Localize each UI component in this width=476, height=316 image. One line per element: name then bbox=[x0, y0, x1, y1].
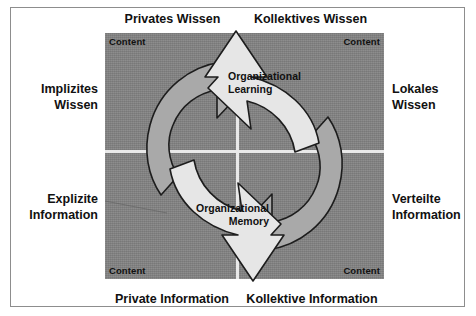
axis-label-left-top-line2: Wissen bbox=[14, 98, 98, 114]
axis-label-right-top: Lokales Wissen bbox=[392, 82, 439, 113]
axis-label-right-top-line2: Wissen bbox=[392, 98, 439, 114]
axis-label-bottom-right: Kollektive Information bbox=[242, 292, 382, 307]
axis-label-top-right: Kollektives Wissen bbox=[243, 12, 378, 27]
arrow-label-organizational-learning: Organizational Learning bbox=[228, 70, 301, 96]
axis-label-right-bottom-line2: Information bbox=[392, 208, 461, 224]
axis-label-bottom-left: Private Information bbox=[108, 292, 236, 307]
axis-label-top-left: Privates Wissen bbox=[110, 12, 235, 27]
axis-label-left-top-line1: Implizites bbox=[14, 82, 98, 98]
arrow-label-organizational-memory: Organizational Memory bbox=[172, 202, 269, 228]
arrow-label-memory-line1: Organizational bbox=[172, 202, 269, 215]
axis-label-left-bottom-line2: Information bbox=[6, 208, 98, 224]
diagram-figure: Privates Wissen Kollektives Wissen Priva… bbox=[0, 0, 476, 316]
arrow-label-memory-line2: Memory bbox=[172, 215, 269, 228]
axis-label-left-bottom-line1: Explizite bbox=[6, 192, 98, 208]
arrow-label-learning-line2: Learning bbox=[228, 83, 301, 96]
axis-label-left-top: Implizites Wissen bbox=[14, 82, 98, 113]
axis-label-right-bottom: Verteilte Information bbox=[392, 192, 461, 223]
scan-artifact-line bbox=[105, 201, 167, 213]
axis-label-right-top-line1: Lokales bbox=[392, 82, 439, 98]
arrow-label-learning-line1: Organizational bbox=[228, 70, 301, 83]
axis-label-left-bottom: Explizite Information bbox=[6, 192, 98, 223]
axis-label-right-bottom-line1: Verteilte bbox=[392, 192, 461, 208]
